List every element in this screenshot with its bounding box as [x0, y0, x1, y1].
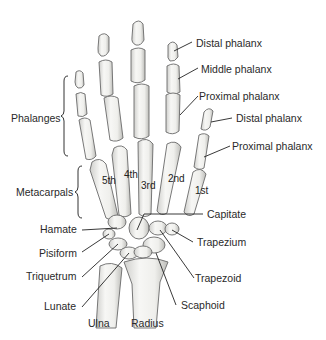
- label-distal-phalanx-finger: Distal phalanx: [196, 38, 262, 49]
- label-hamate: Hamate: [40, 224, 77, 235]
- label-middle-phalanx: Middle phalanx: [201, 64, 272, 75]
- ring-finger-bones: [98, 34, 123, 141]
- middle-finger-bones: [131, 21, 149, 139]
- label-trapezoid: Trapezoid: [195, 273, 241, 284]
- label-metacarpals: Metacarpals: [16, 187, 73, 198]
- label-phalanges: Phalanges: [11, 113, 61, 124]
- hand-skeleton-illustration: [0, 0, 326, 340]
- label-proximal-phalanx-finger: Proximal phalanx: [199, 91, 280, 102]
- label-pisiform: Pisiform: [39, 248, 77, 259]
- label-lunate: Lunate: [44, 301, 76, 312]
- label-capitate: Capitate: [207, 209, 246, 220]
- label-scaphoid: Scaphoid: [181, 300, 225, 311]
- label-metacarpal-3rd: 3rd: [141, 181, 155, 191]
- label-ulna: Ulna: [88, 318, 110, 329]
- label-distal-phalanx-thumb: Distal phalanx: [236, 113, 302, 124]
- label-triquetrum: Triquetrum: [26, 271, 76, 282]
- label-metacarpal-2nd: 2nd: [168, 174, 185, 184]
- little-finger-bones: [75, 71, 96, 160]
- label-metacarpal-5th: 5th: [102, 176, 116, 186]
- label-radius: Radius: [131, 318, 164, 329]
- label-proximal-phalanx-thumb: Proximal phalanx: [232, 141, 313, 152]
- label-metacarpal-1st: 1st: [195, 186, 208, 196]
- label-metacarpal-4th: 4th: [124, 170, 138, 180]
- thumb-bones: [194, 109, 213, 170]
- hand-anatomy-diagram: Distal phalanx Middle phalanx Proximal p…: [0, 0, 326, 340]
- label-trapezium: Trapezium: [197, 237, 246, 248]
- index-finger-bones: [166, 42, 180, 134]
